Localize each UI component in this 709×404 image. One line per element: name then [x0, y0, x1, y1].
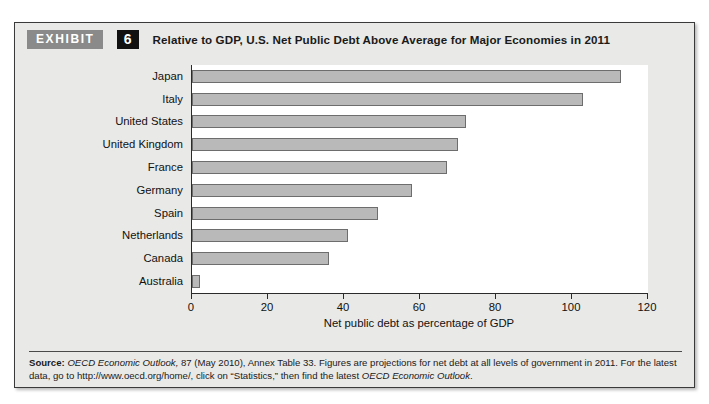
- category-label: Germany: [137, 184, 192, 197]
- bar: [192, 93, 583, 106]
- bar-row: Germany: [192, 179, 648, 202]
- plot-area: JapanItalyUnited StatesUnited KingdomFra…: [191, 65, 648, 294]
- x-tick-label: 0: [188, 301, 194, 313]
- bar-row: Netherlands: [192, 225, 648, 248]
- bar-row: Japan: [192, 65, 648, 88]
- x-tick-label: 80: [489, 301, 502, 313]
- source-publication-1: OECD Economic Outlook,: [67, 357, 178, 368]
- x-tick: [267, 294, 268, 299]
- bar: [192, 138, 458, 151]
- x-tick-label: 20: [261, 301, 274, 313]
- x-tick-label: 100: [562, 301, 581, 313]
- x-tick: [571, 294, 572, 299]
- x-tick-label: 120: [638, 301, 657, 313]
- category-label: United Kingdom: [103, 138, 192, 151]
- bar: [192, 252, 329, 265]
- bar: [192, 184, 412, 197]
- source-body-end: .: [470, 370, 473, 381]
- bar-row: Italy: [192, 88, 648, 111]
- source-label: Source:: [29, 357, 65, 368]
- x-tick-label: 60: [413, 301, 426, 313]
- chart-panel: JapanItalyUnited StatesUnited KingdomFra…: [31, 59, 679, 344]
- bar-row: Spain: [192, 202, 648, 225]
- category-label: France: [148, 161, 192, 174]
- category-label: Japan: [152, 70, 192, 83]
- category-label: Canada: [143, 252, 192, 265]
- bar-row: Canada: [192, 247, 648, 270]
- x-tick: [419, 294, 420, 299]
- category-label: Netherlands: [122, 229, 192, 242]
- bar: [192, 229, 348, 242]
- bar-row: United States: [192, 111, 648, 134]
- category-label: Australia: [139, 275, 192, 288]
- x-tick: [495, 294, 496, 299]
- category-label: Italy: [162, 93, 192, 106]
- source-note: Source: OECD Economic Outlook, 87 (May 2…: [29, 357, 684, 382]
- x-axis-title: Net public debt as percentage of GDP: [191, 317, 647, 329]
- bar: [192, 115, 466, 128]
- bar-row: United Kingdom: [192, 133, 648, 156]
- bar: [192, 207, 378, 220]
- bar: [192, 70, 621, 83]
- x-tick: [343, 294, 344, 299]
- x-tick-label: 40: [337, 301, 350, 313]
- exhibit-badge: EXHIBIT: [27, 30, 103, 49]
- bar: [192, 161, 447, 174]
- category-label: Spain: [154, 207, 192, 220]
- bar: [192, 275, 200, 288]
- exhibit-card: EXHIBIT 6 Relative to GDP, U.S. Net Publ…: [14, 22, 695, 388]
- x-tick: [191, 294, 192, 299]
- footer-divider: [29, 351, 682, 352]
- exhibit-header: EXHIBIT 6 Relative to GDP, U.S. Net Publ…: [15, 23, 694, 56]
- exhibit-title: Relative to GDP, U.S. Net Public Debt Ab…: [153, 33, 610, 46]
- exhibit-number-badge: 6: [117, 30, 139, 49]
- x-tick: [647, 294, 648, 299]
- x-axis: Net public debt as percentage of GDP 020…: [191, 294, 647, 334]
- source-publication-2: OECD Economic Outlook: [362, 370, 470, 381]
- bar-row: Australia: [192, 270, 648, 293]
- category-label: United States: [115, 115, 192, 128]
- bar-row: France: [192, 156, 648, 179]
